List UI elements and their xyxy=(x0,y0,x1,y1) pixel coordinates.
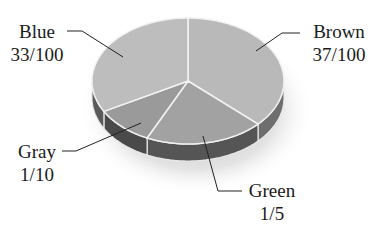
label-brown-value: 37/100 xyxy=(302,43,376,66)
label-gray-name: Gray xyxy=(14,140,60,163)
label-blue-name: Blue xyxy=(6,20,68,43)
label-green-name: Green xyxy=(240,179,304,202)
pie-top xyxy=(92,18,284,144)
label-brown: Brown 37/100 xyxy=(302,20,376,66)
label-blue-value: 33/100 xyxy=(6,43,68,66)
label-gray: Gray 1/10 xyxy=(14,140,60,186)
label-green-value: 1/5 xyxy=(240,202,304,225)
label-blue: Blue 33/100 xyxy=(6,20,68,66)
label-brown-name: Brown xyxy=(302,20,376,43)
label-gray-value: 1/10 xyxy=(14,163,60,186)
label-green: Green 1/5 xyxy=(240,179,304,225)
